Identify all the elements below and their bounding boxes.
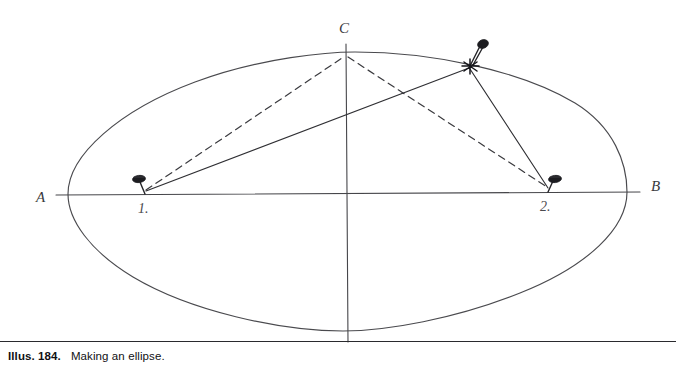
figure-canvas: A B C D 1. 2. [0, 0, 676, 344]
string-solid-point-to-focus2 [470, 69, 548, 188]
label-vertex-a: A [35, 189, 46, 205]
caption-rule [0, 341, 676, 342]
pin-1-shaft [140, 182, 145, 194]
illustration-page: A B C D 1. 2. Illus. 184.Making an ellip… [0, 0, 676, 380]
label-focus-2: 2. [540, 199, 551, 214]
label-vertex-c: C [339, 20, 350, 36]
string-solid-focus1-to-point [146, 68, 469, 191]
caption-number: Illus. 184. [8, 350, 61, 362]
pin-1-marker [132, 175, 146, 194]
figure-caption: Illus. 184.Making an ellipse. [8, 349, 668, 364]
pin-2-marker [548, 175, 562, 192]
pencil-point-crossmark [462, 59, 479, 74]
string-dashed-focus1-to-c [146, 56, 345, 190]
pin-1-head [132, 175, 146, 184]
ellipse-construction-figure: A B C D 1. 2. [0, 0, 676, 344]
pin-2-head [548, 175, 562, 184]
label-vertex-b: B [651, 178, 660, 194]
caption-text: Making an ellipse. [71, 350, 165, 362]
label-focus-1: 1. [138, 201, 149, 216]
